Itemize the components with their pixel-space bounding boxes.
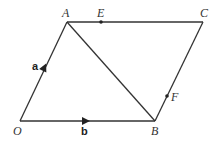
arrow-b-icon: [82, 117, 90, 125]
vector-b-label: b: [81, 125, 88, 137]
label-A: A: [61, 6, 70, 20]
label-C: C: [200, 6, 209, 20]
vector-a-label: a: [32, 60, 39, 72]
point-F-marker: [165, 94, 169, 98]
label-B: B: [151, 124, 159, 138]
parallelogram-diagram: A E C F O B a b: [0, 0, 215, 144]
label-E: E: [96, 6, 105, 20]
segment-OA: [20, 22, 67, 121]
segment-AB: [67, 22, 155, 121]
label-F: F: [170, 90, 179, 104]
point-E-marker: [99, 20, 103, 24]
segment-BC: [155, 22, 203, 121]
label-O: O: [13, 124, 22, 138]
arrow-a-icon: [39, 62, 50, 73]
